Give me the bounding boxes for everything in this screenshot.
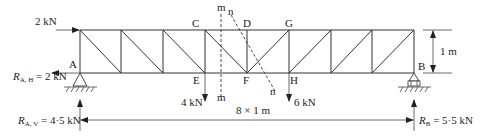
truss-diagram: m n m n A B C D G E F H 2 kN 4 kN 6 kN [0, 0, 486, 136]
node-label-B: B [418, 60, 425, 72]
node-label-D: D [243, 17, 251, 29]
load-label-6kN: 6 kN [294, 96, 316, 108]
node-label-A: A [69, 58, 77, 70]
vertical-members [80, 30, 414, 73]
reaction-label-RB: RB = 5·5 kN [418, 114, 473, 128]
pin-support-A [64, 73, 97, 92]
section-n-top-label: n [228, 5, 234, 17]
load-label-2kN: 2 kN [35, 15, 57, 27]
section-n-bottom-label: n [270, 85, 276, 97]
roller-support-B [398, 73, 431, 92]
reaction-label-RAH: RA, H = 2 kN [12, 70, 67, 84]
reaction-label-RAV: RA, V = 4·5 kN [17, 114, 81, 128]
node-label-F: F [243, 74, 249, 86]
height-dimension-label: 1 m [440, 45, 457, 57]
section-m-bottom-label: m [217, 91, 226, 103]
section-m-top-label: m [217, 1, 226, 13]
section-line-n [231, 15, 275, 91]
node-label-H: H [290, 74, 298, 86]
node-label-C: C [192, 17, 199, 29]
node-label-G: G [285, 17, 293, 29]
span-dimension-label: 8 × 1 m [236, 104, 270, 116]
load-label-4kN: 4 kN [181, 96, 203, 108]
node-label-E: E [193, 74, 200, 86]
